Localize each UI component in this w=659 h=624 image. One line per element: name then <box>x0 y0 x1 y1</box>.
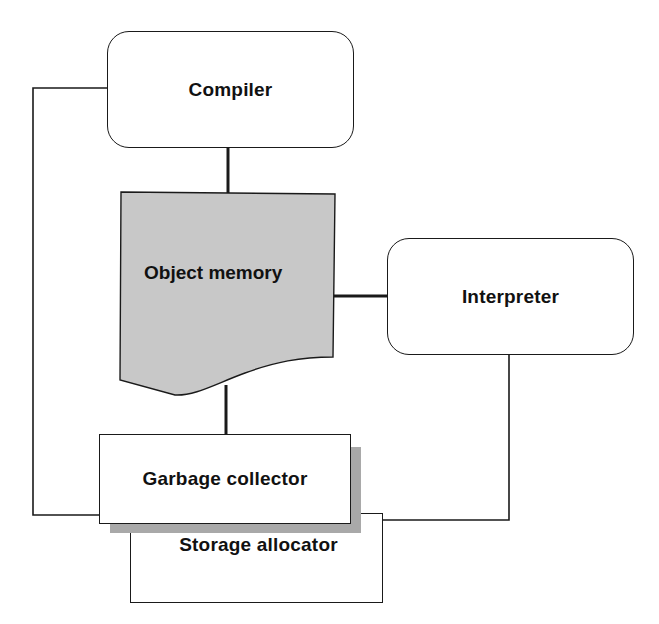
interpreter-node[interactable]: Interpreter <box>387 238 634 355</box>
object-memory-label: Object memory <box>144 262 282 284</box>
compiler-node[interactable]: Compiler <box>107 31 354 148</box>
garbage-collector-label: Garbage collector <box>143 468 308 490</box>
garbage-collector-node[interactable]: Garbage collector <box>99 434 351 524</box>
object-memory-shape <box>120 192 335 395</box>
storage-allocator-label: Storage allocator <box>179 534 338 556</box>
edge-compiler-garbage-collector <box>33 88 108 515</box>
compiler-label: Compiler <box>189 79 273 101</box>
edge-interpreter-storage-allocator <box>383 354 509 520</box>
interpreter-label: Interpreter <box>462 286 559 308</box>
